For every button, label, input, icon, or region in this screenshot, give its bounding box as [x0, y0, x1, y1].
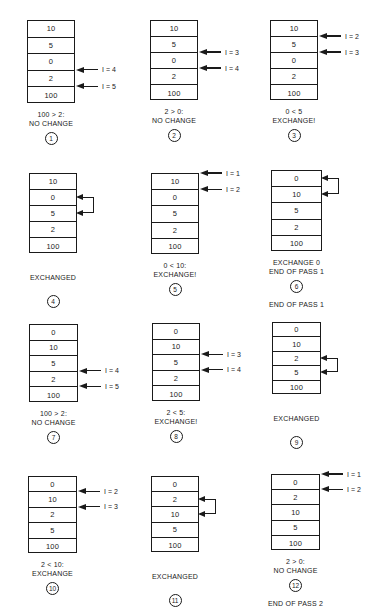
caption-line: 0 < 10:	[135, 261, 215, 270]
array-cell: 100	[272, 536, 319, 551]
pointer-label: I = 2	[345, 33, 359, 40]
array-cell: 2	[151, 69, 197, 85]
step-number-badge: 12	[289, 579, 302, 592]
arrow-shaft	[87, 386, 101, 387]
caption-line: NO CHANGE	[134, 116, 214, 125]
arrowhead-icon	[320, 369, 327, 375]
step-caption: EXCHANGE 0END OF PASS 1	[257, 258, 337, 276]
array-cell: 0	[272, 171, 321, 187]
swap-bracket-icon	[78, 197, 94, 213]
array-cell: 100	[152, 239, 198, 255]
caption-line: EXCHANGED	[135, 572, 215, 581]
array-cell: 5	[272, 521, 319, 536]
array-cell: 0	[30, 190, 76, 206]
array-cell: 5	[152, 206, 198, 222]
step-caption: 100 > 2:NO CHANGE	[11, 110, 91, 128]
arrowhead-icon	[320, 355, 327, 361]
step-caption: 2 < 10:EXCHANGE	[13, 560, 93, 578]
step-caption: EXCHANGED	[257, 414, 337, 423]
array-cell: 2	[272, 490, 319, 505]
array-cell: 100	[30, 387, 77, 403]
array-cell: 0	[152, 477, 198, 492]
array-cell: 10	[271, 21, 317, 37]
step-caption: 0 < 10:EXCHANGE!	[135, 261, 215, 279]
arrow-shaft	[329, 489, 343, 490]
pass-end-note: END OF PASS 1	[252, 301, 342, 308]
array-cell: 5	[151, 37, 197, 53]
caption-line: EXCHANGE 0	[257, 258, 337, 267]
arrowhead-icon	[198, 496, 205, 502]
arrow-shaft	[209, 354, 223, 355]
pointer-label: I = 2	[347, 486, 361, 493]
array-cell: 100	[271, 85, 317, 101]
array-cell: 10	[152, 507, 198, 522]
index-pointer: I = 1	[200, 169, 240, 177]
array-cell: 2	[271, 69, 317, 85]
arrow-left-icon	[321, 486, 329, 492]
array-cell: 0	[152, 190, 198, 206]
array-cell: 5	[272, 203, 321, 219]
arrowhead-icon	[76, 194, 83, 200]
array-cell: 0	[30, 325, 77, 341]
step-number-badge: 4	[47, 295, 60, 308]
arrowhead-icon	[321, 191, 328, 197]
arrow-left-icon	[76, 83, 84, 89]
array-stack: 01052100	[29, 324, 78, 402]
arrow-shaft	[207, 67, 221, 68]
pointer-label: I = 4	[227, 366, 241, 373]
step-caption: EXCHANGED	[135, 572, 215, 581]
array-cell: 10	[272, 505, 319, 520]
step-caption: 2 > 0:NO CHANGE	[256, 557, 336, 575]
pass-end-note: END OF PASS 2	[251, 600, 341, 607]
array-cell: 2	[153, 371, 199, 387]
step-caption: 100 > 2:NO CHANGE	[14, 409, 94, 427]
pointer-label: I = 4	[225, 65, 239, 72]
pointer-label: I = 3	[104, 503, 118, 510]
index-pointer: I = 5	[79, 382, 119, 390]
pointer-label: I = 3	[345, 49, 359, 56]
caption-line: EXCHANGE!	[254, 116, 334, 125]
swap-bracket-icon	[323, 178, 339, 194]
array-cell: 2	[152, 223, 198, 239]
array-cell: 2	[28, 71, 74, 88]
array-stack: 01052100	[271, 170, 322, 251]
index-pointer: I = 3	[78, 503, 118, 511]
index-pointer: I = 5	[76, 82, 116, 90]
array-cell: 10	[272, 187, 321, 203]
caption-line: 2 < 5:	[136, 408, 216, 417]
pointer-label: I = 1	[226, 170, 240, 177]
arrow-left-icon	[201, 351, 209, 357]
arrow-left-icon	[78, 504, 86, 510]
arrow-shaft	[86, 506, 100, 507]
array-stack: 02105100	[151, 476, 199, 552]
caption-line: 100 > 2:	[14, 409, 94, 418]
array-cell: 5	[153, 355, 199, 371]
arrow-shaft	[329, 473, 343, 474]
array-cell: 100	[273, 381, 320, 395]
array-cell: 5	[29, 523, 76, 538]
array-cell: 5	[271, 37, 317, 53]
caption-line: EXCHANGE!	[135, 270, 215, 279]
array-cell: 10	[152, 174, 198, 190]
pointer-label: I = 5	[102, 83, 116, 90]
step-number-badge: 7	[47, 431, 60, 444]
pointer-label: I = 3	[225, 49, 239, 56]
array-cell: 0	[273, 323, 320, 337]
arrow-left-icon	[319, 33, 327, 39]
array-stack: 01025100	[272, 322, 321, 394]
array-cell: 100	[152, 538, 198, 553]
step-number-badge: 3	[288, 129, 301, 142]
pointer-label: I = 3	[227, 351, 241, 358]
array-stack: 10502100	[270, 20, 318, 100]
arrow-left-icon	[79, 368, 87, 374]
array-cell: 2	[152, 492, 198, 507]
arrow-left-icon	[201, 367, 209, 373]
array-cell: 2	[29, 508, 76, 523]
index-pointer: I = 4	[79, 367, 119, 375]
caption-line: END OF PASS 1	[257, 267, 337, 276]
step-number-badge: 6	[290, 280, 303, 293]
array-cell: 10	[28, 21, 74, 38]
step-caption: 0 < 5EXCHANGE!	[254, 107, 334, 125]
arrow-shaft	[208, 172, 222, 173]
arrow-left-icon	[319, 49, 327, 55]
